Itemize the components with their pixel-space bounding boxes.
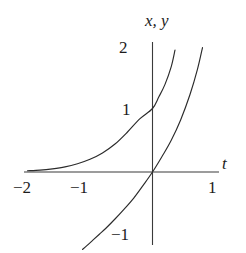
y-tick-label-negative-1: −1 <box>111 226 129 243</box>
x-tick-label-negative-1: −1 <box>70 179 88 196</box>
y-tick-label-2: 2 <box>119 39 128 56</box>
horizontal-axis-title: t <box>222 155 227 172</box>
vertical-axis-title: x, y <box>145 12 169 29</box>
y-tick-label-1: 1 <box>122 101 131 118</box>
x-tick-label-1: 1 <box>208 179 217 196</box>
graph-figure: x, y t 2 1 −1 −2 −1 1 <box>0 0 246 253</box>
x-tick-label-negative-2: −2 <box>13 179 31 196</box>
curve-series-y <box>83 48 203 250</box>
